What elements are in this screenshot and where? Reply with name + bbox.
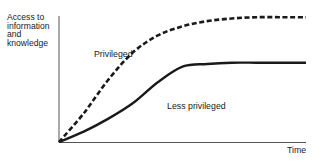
less-privileged-label: Less privileged bbox=[167, 101, 226, 111]
privileged-label: Privileged bbox=[94, 49, 133, 59]
x-axis-label: Time bbox=[287, 145, 306, 155]
privileged-series-line bbox=[59, 17, 306, 142]
chart-plot bbox=[0, 0, 322, 162]
